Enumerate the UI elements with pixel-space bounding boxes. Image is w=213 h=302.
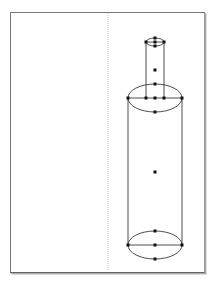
handle[interactable] (154, 69, 157, 72)
handle[interactable] (154, 41, 157, 44)
handle[interactable] (163, 41, 166, 44)
handle[interactable] (163, 97, 166, 100)
center-handle[interactable] (154, 171, 157, 174)
handle[interactable] (127, 244, 130, 247)
drawing-canvas[interactable] (0, 0, 213, 302)
handle[interactable] (154, 45, 157, 48)
handle[interactable] (181, 97, 184, 100)
handle[interactable] (145, 41, 148, 44)
selection-handles[interactable] (127, 37, 184, 261)
handle[interactable] (154, 258, 157, 261)
handle[interactable] (154, 244, 157, 247)
handle[interactable] (145, 97, 148, 100)
handle[interactable] (154, 230, 157, 233)
handle[interactable] (154, 111, 157, 114)
handle[interactable] (154, 97, 157, 100)
handle[interactable] (181, 244, 184, 247)
handle[interactable] (127, 97, 130, 100)
handle[interactable] (154, 83, 157, 86)
handle[interactable] (154, 37, 157, 40)
